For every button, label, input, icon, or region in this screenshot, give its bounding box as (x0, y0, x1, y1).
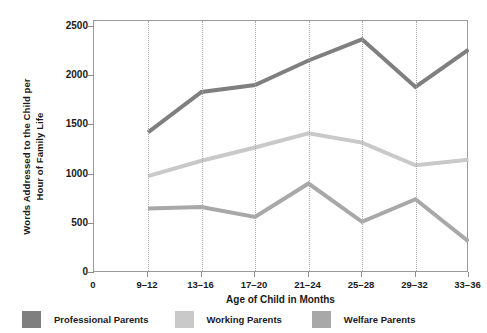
grid-line (148, 21, 149, 271)
legend-item-welfare-parents: Welfare Parents (312, 311, 416, 328)
y-tick-label: 0 (44, 267, 88, 277)
y-axis-tick-labels: 25002000150010005000 (42, 0, 88, 333)
y-tick-label: 1500 (44, 119, 88, 129)
x-tick-label: 29–32 (401, 279, 427, 290)
legend-swatch-working-parents (175, 311, 194, 328)
x-tick-mark (415, 272, 416, 277)
y-tick-mark (88, 75, 94, 76)
legend-swatch-welfare-parents (312, 311, 331, 328)
y-tick-label: 2500 (44, 21, 88, 31)
x-tick-mark (361, 272, 362, 277)
grid-line (255, 21, 256, 271)
y-tick-mark (88, 124, 94, 125)
legend-label-professional-parents: Professional Parents (54, 314, 149, 325)
series-lines (94, 21, 469, 273)
grid-line (416, 21, 417, 271)
legend-item-professional-parents: Professional Parents (22, 311, 149, 328)
x-tick-mark (468, 272, 469, 277)
y-axis-title-line-1: Words Addressed to the Child per (21, 32, 34, 282)
y-tick-label: 500 (44, 218, 88, 228)
grid-line (202, 21, 203, 271)
legend-label-working-parents: Working Parents (207, 314, 282, 325)
y-tick-mark (88, 26, 94, 27)
plot-area (93, 20, 468, 272)
grid-line (362, 21, 363, 271)
line-chart-figure: Words Addressed to the Child per Hour of… (0, 0, 487, 333)
x-tick-label: 33–36 (454, 279, 480, 290)
x-tick-mark (147, 272, 148, 277)
x-tick-label-origin: 0 (90, 279, 95, 290)
chart-legend: Professional Parents Working Parents Wel… (22, 308, 465, 330)
x-tick-label: 13–16 (187, 279, 213, 290)
legend-label-welfare-parents: Welfare Parents (344, 314, 416, 325)
y-tick-label: 2000 (44, 70, 88, 80)
legend-swatch-professional-parents (22, 311, 41, 328)
x-tick-label: 21–24 (294, 279, 320, 290)
y-tick-mark (88, 223, 94, 224)
y-tick-label: 1000 (44, 169, 88, 179)
grid-line (309, 21, 310, 271)
x-tick-label: 9–12 (136, 279, 157, 290)
x-tick-mark (308, 272, 309, 277)
x-tick-label: 17–20 (241, 279, 267, 290)
x-axis-title: Age of Child in Months (93, 294, 468, 305)
legend-item-working-parents: Working Parents (175, 311, 282, 328)
x-tick-mark (201, 272, 202, 277)
y-tick-mark (88, 174, 94, 175)
x-tick-label: 25–28 (348, 279, 374, 290)
y-tick-mark (88, 272, 94, 273)
x-tick-mark (254, 272, 255, 277)
